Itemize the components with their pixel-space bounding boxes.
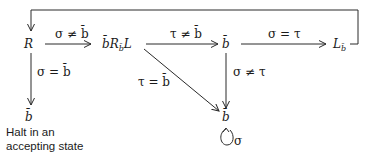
node-b-halt: b̄ bbox=[25, 108, 33, 124]
node-Lb: Lb̄ bbox=[332, 37, 346, 53]
node-b-middle: b̄ bbox=[222, 35, 230, 51]
self-loop-label-sigma: σ bbox=[234, 134, 242, 148]
edge-label-tau-eq-b: τ = b̄ bbox=[138, 73, 170, 89]
halt-note-line2: accepting state bbox=[6, 140, 83, 152]
node-bRbL: b̄Rb̄L bbox=[102, 35, 132, 53]
halt-note-line1: Halt in an bbox=[6, 126, 55, 138]
edge-bRbL-to-b-loop: τ = b̄ bbox=[138, 49, 219, 111]
node-R: R bbox=[23, 37, 33, 51]
edge-label-tau-neq-b: τ ≠ b̄ bbox=[170, 25, 202, 41]
self-loop-arrow: σ bbox=[221, 128, 242, 148]
edge-label-sigma-eq-b: σ = b̄ bbox=[37, 63, 71, 79]
edge-bRbL-to-b: τ ≠ b̄ bbox=[146, 25, 218, 44]
edge-label-sigma-eq-tau: σ = τ bbox=[268, 27, 301, 41]
edge-b-to-b-loop: σ ≠ τ bbox=[226, 53, 266, 108]
state-diagram: R σ ≠ b̄ b̄Rb̄L τ ≠ b̄ b̄ σ = τ Lb̄ σ = … bbox=[0, 0, 373, 159]
edge-R-to-bRbL: σ ≠ b̄ bbox=[45, 25, 91, 44]
edge-b-to-Lb: σ = τ bbox=[241, 27, 326, 44]
edge-label-sigma-neq-b: σ ≠ b̄ bbox=[55, 25, 89, 41]
edge-label-sigma-neq-tau: σ ≠ τ bbox=[233, 65, 266, 79]
edge-R-to-halt: σ = b̄ bbox=[31, 53, 71, 105]
node-b-loop: b̄ bbox=[222, 108, 230, 124]
